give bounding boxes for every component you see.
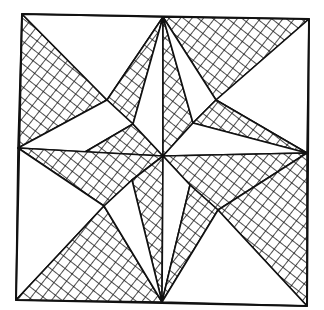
quilt-pieces-group [16, 14, 309, 306]
quilt-block-figure [0, 0, 324, 310]
